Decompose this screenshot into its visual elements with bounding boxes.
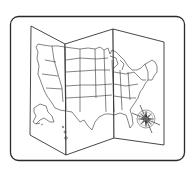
- map-panels: [30, 26, 164, 155]
- map-panel-left: [30, 26, 66, 155]
- folded-map-icon: [0, 0, 194, 173]
- icon-canvas: [0, 0, 194, 173]
